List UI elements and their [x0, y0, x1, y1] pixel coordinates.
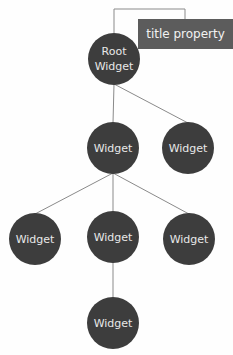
node-label: Widget: [169, 142, 208, 155]
widget-node: Widget: [87, 122, 139, 174]
widget-tree-diagram: title property RootWidgetWidgetWidgetWid…: [0, 0, 233, 355]
node-label: Widget: [94, 231, 133, 244]
node-label: Widget: [170, 233, 209, 246]
title-property-annotation: title property: [138, 19, 233, 49]
widget-node: Widget: [162, 122, 214, 174]
widget-node: Widget: [163, 213, 215, 265]
root-widget-node: RootWidget: [88, 33, 140, 85]
edges-layer: [35, 84, 189, 298]
edge-root-w1: [113, 84, 114, 123]
node-label: Widget: [94, 142, 133, 155]
nodes-layer: RootWidgetWidgetWidgetWidgetWidgetWidget…: [9, 33, 215, 349]
edge-w1-w3: [35, 173, 113, 214]
edge-root-w2: [114, 84, 188, 123]
node-label: Widget: [94, 317, 133, 330]
widget-node: Widget: [87, 297, 139, 349]
node-label: Root: [102, 45, 128, 58]
widget-node: Widget: [87, 211, 139, 263]
node-label: Widget: [95, 60, 134, 73]
edge-w1-w5: [113, 173, 189, 214]
node-circle: [88, 33, 140, 85]
widget-node: Widget: [9, 213, 61, 265]
node-label: Widget: [16, 233, 55, 246]
annotation-label: title property: [146, 27, 225, 41]
